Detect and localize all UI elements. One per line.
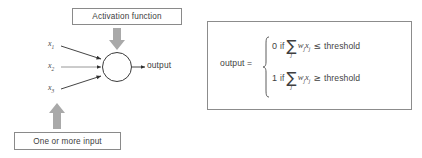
activation-function-label: Activation function (92, 12, 161, 21)
case-1-value: 1 (272, 73, 277, 83)
input-signal-arrows (61, 46, 101, 89)
input-label-x2: x2 (48, 61, 54, 72)
arrow-x3 (61, 76, 101, 89)
input-label-x2-sub: 2 (52, 66, 55, 72)
output-label: output (147, 60, 171, 70)
up-block-arrow-icon (49, 103, 65, 129)
left-curly-brace-icon (262, 36, 271, 98)
case-0-x-sub: j (309, 46, 311, 52)
case-0-weight-term: wjxj (298, 40, 311, 52)
case-0-relation: ≤ (313, 41, 321, 51)
input-label-x1: x1 (48, 39, 54, 50)
input-description-box: One or more input (14, 132, 121, 150)
case-0-keyword: if (280, 41, 285, 51)
input-label-x3: x3 (48, 83, 54, 94)
formula-left-hand-side: output = (220, 58, 252, 68)
formula-case-0: 0 if ∑ j wjxj ≤ threshold (272, 40, 360, 52)
down-block-arrow-icon (109, 28, 125, 50)
input-description-label: One or more input (33, 137, 102, 146)
case-0-value: 0 (272, 41, 277, 51)
formula-panel: output = 0 if ∑ j wjxj ≤ threshold 1 if … (207, 21, 412, 110)
case-1-summation-symbol: ∑ j (287, 74, 297, 83)
case-0-threshold: threshold (324, 41, 360, 51)
case-1-sum-subscript: j (291, 83, 293, 92)
case-1-keyword: if (280, 73, 285, 83)
arrow-x1 (61, 46, 101, 59)
neuron-circle (103, 53, 132, 82)
case-1-x-sub: j (309, 78, 311, 84)
activation-function-box: Activation function (72, 8, 182, 25)
case-1-threshold: threshold (324, 73, 360, 83)
input-label-x3-sub: 3 (52, 88, 55, 94)
formula-case-1: 1 if ∑ j wjxj ≥ threshold (272, 72, 360, 84)
case-0-summation-symbol: ∑ j (287, 42, 297, 51)
case-1-relation: ≥ (313, 73, 321, 83)
input-label-x1-sub: 1 (52, 44, 55, 50)
case-0-sum-subscript: j (291, 51, 293, 60)
case-1-weight-term: wjxj (298, 72, 311, 84)
